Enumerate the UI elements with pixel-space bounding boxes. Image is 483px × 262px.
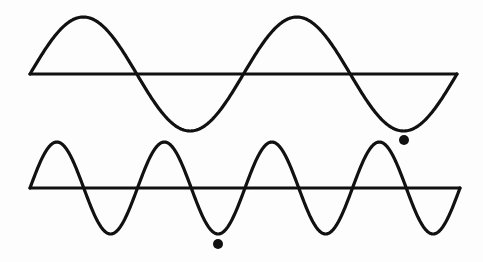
wave-diagram: Two sine waves: lower wave has twice the… [0,0,483,262]
lower-wave-group [30,142,460,249]
wave-canvas [0,0,483,262]
lower-wave-marker-dot [213,239,223,249]
upper-wave-group [30,17,457,145]
upper-wave-marker-dot [399,135,409,145]
